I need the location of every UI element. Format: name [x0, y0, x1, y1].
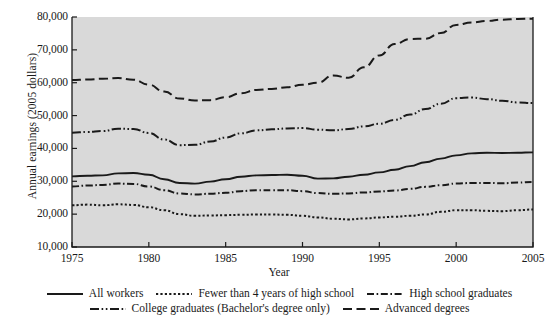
- x-axis-tick-label: 1995: [349, 252, 409, 264]
- legend-entry[interactable]: Fewer than 4 years of high school: [155, 287, 354, 300]
- legend-line-swatch: [342, 304, 380, 314]
- x-axis-title: Year: [0, 266, 558, 278]
- legend-entry[interactable]: Advanced degrees: [342, 302, 470, 315]
- earnings-by-education-chart: Annual earnings (2005 dollars) 10,00020,…: [0, 0, 558, 331]
- legend-label: Advanced degrees: [385, 302, 470, 315]
- legend-entry[interactable]: High school graduates: [366, 287, 512, 300]
- legend-label: Fewer than 4 years of high school: [198, 287, 354, 300]
- legend-label: High school graduates: [409, 287, 512, 300]
- legend-entry[interactable]: All workers: [46, 287, 144, 300]
- legend-label: All workers: [89, 287, 144, 300]
- x-axis-tick-label: 1990: [273, 252, 333, 264]
- x-axis-tick-label: 1975: [42, 252, 102, 264]
- plot-background: [72, 17, 533, 247]
- chart-legend: All workersFewer than 4 years of high sc…: [0, 286, 558, 316]
- plot-area: [0, 0, 558, 331]
- legend-row: College graduates (Bachelor's degree onl…: [0, 301, 558, 316]
- x-axis-tick-label: 1980: [119, 252, 179, 264]
- legend-line-swatch: [89, 304, 127, 314]
- legend-entry[interactable]: College graduates (Bachelor's degree onl…: [89, 302, 330, 315]
- legend-line-swatch: [155, 289, 193, 299]
- legend-label: College graduates (Bachelor's degree onl…: [132, 302, 330, 315]
- x-axis-tick-label: 2000: [426, 252, 486, 264]
- x-axis-tick-label: 1985: [196, 252, 256, 264]
- legend-line-swatch: [366, 289, 404, 299]
- x-axis-tick-label: 2005: [503, 252, 558, 264]
- legend-line-swatch: [46, 289, 84, 299]
- legend-row: All workersFewer than 4 years of high sc…: [0, 286, 558, 301]
